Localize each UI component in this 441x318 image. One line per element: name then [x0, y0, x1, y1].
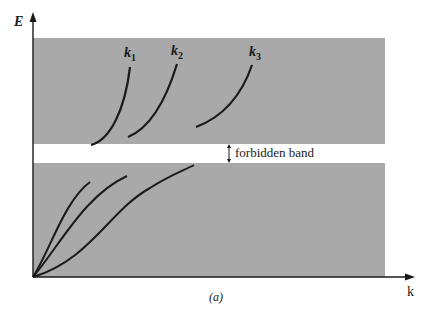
- y-axis-label: E: [14, 14, 23, 30]
- forbidden-band-label: forbidden band: [235, 145, 314, 161]
- label-k3: k3: [249, 44, 261, 62]
- band-diagram: E k k1 k2 k3 forbidden band (a): [0, 0, 441, 318]
- arrow-down-icon: [227, 159, 231, 163]
- label-k1: k1: [124, 45, 136, 63]
- label-k2-sub: 2: [178, 50, 183, 61]
- label-k2: k2: [171, 43, 183, 61]
- label-k1-main: k: [124, 45, 131, 60]
- band-diagram-svg: [0, 0, 441, 318]
- label-k3-sub: 3: [256, 51, 261, 62]
- y-axis-arrow-icon: [30, 12, 37, 22]
- arrow-up-icon: [227, 144, 231, 148]
- upper-allowed-band: [33, 38, 385, 144]
- lower-allowed-band: [33, 163, 385, 277]
- figure-caption: (a): [209, 290, 223, 305]
- x-axis-arrow-icon: [405, 274, 415, 281]
- label-k2-main: k: [171, 43, 178, 58]
- x-axis-label: k: [407, 284, 414, 300]
- label-k3-main: k: [249, 44, 256, 59]
- label-k1-sub: 1: [131, 52, 136, 63]
